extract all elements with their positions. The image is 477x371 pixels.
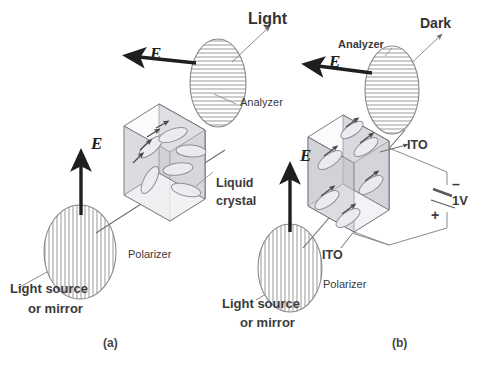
voltage-label: 1V — [452, 194, 468, 209]
output-label-b: Dark — [420, 16, 451, 32]
source-label-line1-b: Light source — [222, 297, 300, 312]
e-arrow-out-b — [318, 66, 372, 73]
source-label-line2-b: or mirror — [240, 316, 295, 331]
output-label-a: Light — [248, 10, 287, 28]
lc-label-line1-a: Liquid — [216, 176, 254, 190]
ito-label-top: ITO — [407, 138, 428, 152]
polarizer-label-b: Polarizer — [323, 278, 366, 290]
e-label-out-b: E — [329, 52, 340, 72]
source-label-line2-a: or mirror — [28, 302, 83, 317]
panel-caption-a: (a) — [103, 337, 118, 350]
e-label-out-a: E — [150, 44, 161, 64]
analyzer-a — [190, 39, 246, 127]
analyzer-b — [365, 46, 419, 134]
e-label-in-a: E — [91, 134, 102, 154]
ito-label-bottom: ITO — [322, 248, 343, 262]
e-label-in-b: E — [300, 146, 311, 166]
e-arrow-out-a — [139, 57, 196, 63]
polarizer-label-a: Polarizer — [128, 248, 171, 260]
figure-canvas: Light E E Analyzer Liquid crystal Polari… — [0, 0, 477, 371]
liquid-crystal-cell-a — [124, 104, 206, 221]
analyzer-label-b: Analyzer — [338, 38, 384, 50]
battery-positive-terminal: + — [431, 207, 439, 223]
panel-caption-b: (b) — [392, 337, 407, 350]
source-label-line1-a: Light source — [10, 282, 88, 297]
liquid-crystal-cell-b — [308, 115, 389, 232]
panel-b-graphics — [256, 36, 455, 312]
ito-leader-bottom — [341, 234, 352, 248]
battery-negative-terminal: – — [452, 176, 460, 192]
lc-label-line2-a: crystal — [216, 194, 256, 208]
output-ray-a — [232, 28, 268, 62]
analyzer-label-a: Analyzer — [240, 96, 283, 108]
